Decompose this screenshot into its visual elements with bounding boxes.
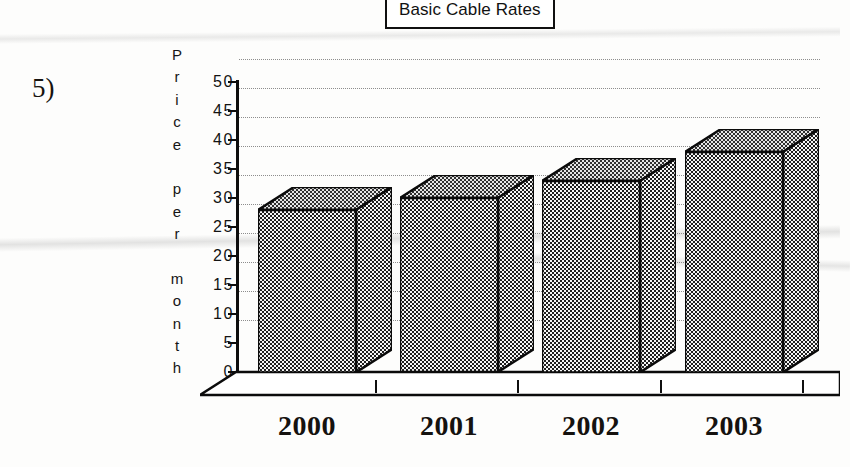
x-axis-label-2003: 2003 [673, 410, 795, 442]
y-axis-tick-mark [228, 81, 239, 83]
bar-2003 [685, 129, 819, 372]
x-axis-tick-mark [375, 380, 377, 393]
bar-2002 [542, 158, 676, 372]
bar-2000 [258, 187, 392, 372]
bar-3d-shape [400, 175, 534, 372]
y-axis-tick-mark [228, 313, 239, 315]
y-axis-tick-mark [228, 168, 239, 170]
y-axis-tick-mark [228, 226, 239, 228]
x-axis-labels: 2000200120022003 [0, 410, 840, 450]
x-axis-tick-mark [517, 380, 519, 393]
bar-3d-shape [542, 158, 676, 372]
y-axis-tick-mark [228, 255, 239, 257]
x-axis-tick-mark [802, 380, 804, 393]
x-axis-tick-mark [660, 380, 662, 393]
bar-3d-shape [258, 187, 392, 372]
y-axis-tick-mark [228, 197, 239, 199]
x-axis-label-2000: 2000 [246, 410, 368, 442]
y-axis-tick-mark [228, 284, 239, 286]
x-axis-label-2002: 2002 [530, 410, 652, 442]
x-axis-label-2001: 2001 [388, 410, 510, 442]
y-axis-tick-mark [228, 110, 239, 112]
y-axis-tick-mark [228, 342, 239, 344]
y-axis-tick-mark [228, 371, 239, 373]
bar-3d-shape [685, 129, 819, 372]
y-axis-tick-mark [228, 139, 239, 141]
bar-2001 [400, 175, 534, 372]
